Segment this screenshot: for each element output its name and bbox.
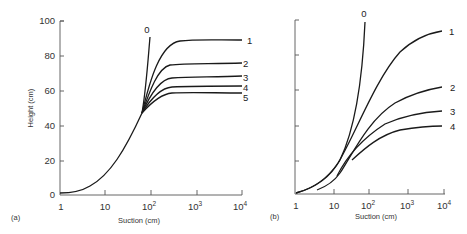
curve-label-a-1: 1 — [247, 35, 252, 46]
xtick-label: 104 — [437, 199, 452, 211]
axis-frame-a — [60, 21, 242, 195]
curve-label-b-2: 2 — [450, 82, 455, 93]
x-ticks-b — [334, 189, 444, 194]
x-axis-title-b: Suction (cm) — [355, 212, 398, 221]
curve-label-a-5: 5 — [243, 92, 248, 103]
ytick-label: 80 — [44, 50, 55, 61]
curve-b-1 — [296, 31, 442, 193]
curve-label-b-4: 4 — [450, 121, 455, 132]
curve-b-0 — [296, 22, 365, 193]
curve-a-common — [60, 113, 142, 193]
curve-b-4 — [352, 126, 442, 160]
y-ticks-b — [295, 55, 299, 161]
xtick-label: 103 — [188, 200, 203, 212]
panel-b: 1 10 102 103 104 Suction (cm) (b) 0 1 2 … — [270, 8, 455, 221]
curve-a-5 — [142, 93, 242, 113]
curve-label-a-0: 0 — [144, 24, 149, 35]
xtick-label: 103 — [400, 199, 415, 211]
ytick-label: 40 — [44, 120, 55, 131]
figure-canvas: 100 80 60 40 20 0 1 10 102 103 104 Sucti… — [0, 0, 467, 234]
curve-label-b-3: 3 — [450, 106, 455, 117]
xtick-label: 102 — [361, 199, 376, 211]
ytick-label: 60 — [44, 85, 55, 96]
ytick-label: 100 — [39, 15, 55, 26]
axis-frame-b — [295, 20, 445, 194]
xtick-label: 10 — [329, 200, 340, 211]
x-axis-title-a: Suction (cm) — [118, 216, 161, 225]
curve-label-b-0: 0 — [361, 8, 366, 19]
curve-label-b-1: 1 — [449, 26, 454, 37]
panel-label-b: (b) — [270, 212, 280, 221]
xtick-label: 1 — [293, 200, 298, 211]
y-ticks-a — [60, 21, 64, 161]
panel-a: 100 80 60 40 20 0 1 10 102 103 104 Sucti… — [11, 15, 252, 225]
x-ticks-a — [105, 190, 242, 195]
curve-label-a-2: 2 — [243, 58, 248, 69]
xtick-label: 102 — [142, 200, 157, 212]
y-axis-title-a: Height (cm) — [26, 88, 35, 127]
ytick-label: 20 — [44, 155, 55, 166]
xtick-label: 1 — [58, 201, 63, 212]
ytick-label: 0 — [50, 189, 55, 200]
xtick-label: 10 — [100, 201, 111, 212]
xtick-label: 104 — [233, 200, 248, 212]
panel-label-a: (a) — [11, 213, 21, 222]
